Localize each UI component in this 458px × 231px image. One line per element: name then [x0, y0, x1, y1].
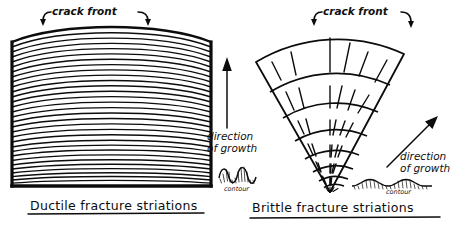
crack-front-left-arrowhead-icon: [40, 19, 46, 26]
center-annotations: direction of growth: [207, 57, 257, 193]
brittle-caption: Brittle fracture striations: [252, 200, 414, 215]
brittle-direction-label-line2: of growth: [400, 162, 450, 174]
brittle-crack-front-right-hook-icon: [401, 12, 411, 22]
ductile-crack-front-annotation: crack front: [40, 5, 151, 26]
center-growth-arrow-icon: [222, 57, 232, 128]
brittle-caption-underline: [250, 217, 440, 218]
brittle-contour-label: contour: [386, 188, 412, 196]
diagram-svg: crack front: [0, 0, 458, 231]
ductile-striations: [12, 33, 211, 183]
brittle-contour-wave: [352, 180, 432, 187]
ductile-caption: Ductile fracture striations: [30, 198, 198, 213]
brittle-crack-front-right-arrowhead-icon: [408, 21, 414, 28]
brittle-panel: crack front: [250, 5, 450, 218]
center-direction-label-line2: of growth: [207, 142, 257, 154]
ductile-panel: crack front: [12, 5, 211, 214]
center-direction-label-line1: direction: [207, 130, 253, 142]
brittle-crack-front-annotation: crack front: [311, 5, 414, 28]
brittle-arc-4: [295, 130, 367, 141]
figure-canvas: crack front: [0, 0, 458, 231]
center-contour-label: contour: [224, 185, 250, 193]
brittle-side-right: [330, 54, 404, 192]
ductile-caption-underline: [28, 213, 204, 214]
brittle-direction-label-line1: direction: [400, 150, 446, 162]
ductile-crack-front-label: crack front: [52, 5, 118, 17]
brittle-crack-front-left-arrowhead-icon: [311, 19, 317, 26]
brittle-radials: [272, 38, 387, 185]
ductile-top-curve: [12, 27, 211, 42]
brittle-crack-front-label: crack front: [323, 5, 389, 17]
center-contour-icon: [219, 167, 256, 184]
center-arrow-head: [222, 57, 232, 71]
crack-front-right-arrowhead-icon: [145, 19, 151, 26]
